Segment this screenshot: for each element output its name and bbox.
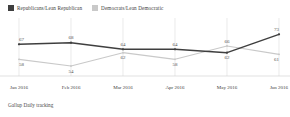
chart-legend: Republicans/Lean Republican Democrats/Le… <box>8 2 163 13</box>
data-label: 58 <box>19 62 25 67</box>
x-axis-tick-label: Mar 2016 <box>113 84 133 92</box>
x-axis-tick-label: Jun 2016 <box>270 84 288 92</box>
data-point <box>70 65 72 67</box>
data-label: 62 <box>121 55 127 60</box>
data-point <box>18 58 20 60</box>
data-point <box>174 48 176 50</box>
chart-figure: Republicans/Lean Republican Democrats/Le… <box>0 0 290 117</box>
data-point <box>70 42 72 44</box>
data-label: 73 <box>274 27 280 32</box>
square-swatch-icon <box>8 5 14 11</box>
data-label: 61 <box>274 57 280 62</box>
legend-item-republicans: Republicans/Lean Republican <box>8 5 82 11</box>
line-chart-svg: 676864646273585462586661 <box>0 16 290 88</box>
data-label: 68 <box>69 35 75 40</box>
x-axis-tick-label: Jan 2016 <box>10 84 28 92</box>
data-point <box>278 53 280 55</box>
data-point <box>122 48 124 50</box>
data-label: 58 <box>173 62 179 67</box>
data-label: 62 <box>225 55 231 60</box>
plot-area: 676864646273585462586661 <box>0 16 290 88</box>
x-axis-tick-label: May 2016 <box>217 84 237 92</box>
square-swatch-icon <box>92 5 98 11</box>
x-axis-tick-label: Feb 2016 <box>62 84 81 92</box>
legend-item-democrats: Democrats/Lean Democratic <box>92 5 163 11</box>
legend-label-democrats: Democrats/Lean Democratic <box>101 5 163 11</box>
data-label: 54 <box>69 69 75 74</box>
x-axis-tick-label: Apr 2016 <box>165 84 184 92</box>
data-label: 64 <box>173 42 179 47</box>
chart-source-note: Gallup Daily tracking <box>8 101 53 109</box>
series-line <box>19 34 279 52</box>
data-point <box>122 52 124 54</box>
data-label: 64 <box>121 42 127 47</box>
data-point <box>226 52 228 54</box>
data-label: 67 <box>19 37 25 42</box>
x-axis-labels: Jan 2016Feb 2016Mar 2016Apr 2016May 2016… <box>0 84 290 94</box>
data-point <box>226 45 228 47</box>
data-label: 66 <box>225 39 231 44</box>
data-point <box>174 58 176 60</box>
data-point <box>278 33 280 35</box>
data-point <box>18 43 20 45</box>
legend-label-republicans: Republicans/Lean Republican <box>17 5 82 11</box>
